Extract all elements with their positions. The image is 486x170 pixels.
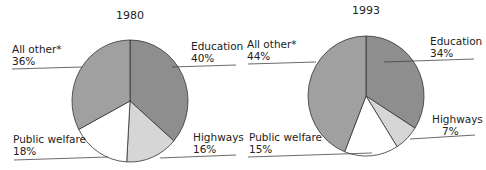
label-1980-welfare: Public welfare 18%	[13, 133, 86, 157]
leader-line-1980-other	[12, 67, 82, 69]
chart-title-1980: 1980	[116, 9, 144, 22]
label-1980-other: All other* 36%	[12, 43, 62, 67]
label-1993-welfare: Public welfare 15%	[249, 131, 322, 155]
label-1980-education: Education 40%	[191, 40, 243, 64]
label-1980-highways: Highways 16%	[193, 131, 244, 155]
label-1993-other: All other* 44%	[247, 38, 297, 62]
leader-line-1980-highways	[160, 155, 236, 158]
leader-line-1993-other	[248, 62, 316, 64]
leader-line-1980-welfare	[14, 157, 108, 160]
chart-title-1993: 1993	[352, 4, 380, 17]
leader-line-1980-education	[172, 65, 236, 67]
label-1993-education: Education 34%	[430, 35, 482, 59]
pie-1980	[72, 40, 188, 162]
label-1993-highways: Highways 7%	[432, 113, 483, 137]
pie-1993	[308, 36, 424, 156]
